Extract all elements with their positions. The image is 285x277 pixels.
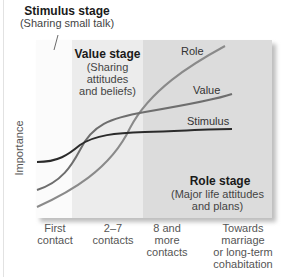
- y-axis-label: Importance: [13, 113, 25, 183]
- x-label-line: more: [140, 234, 194, 246]
- value-stage-subtitle-3: and beliefs): [72, 85, 143, 97]
- stimulus-stage-title: Stimulus stage: [22, 5, 112, 17]
- role-stage-subtitle-1: (Major life attitudes: [160, 188, 275, 200]
- x-label-line: Towards: [206, 222, 280, 234]
- x-label-2-7-contacts: 2–7 contacts: [88, 222, 138, 246]
- role-curve-label: Role: [181, 45, 204, 57]
- x-label-line: cohabitation: [206, 258, 280, 270]
- value-stage-subtitle-1: (Sharing: [72, 61, 143, 73]
- x-label-line: or long-term: [206, 246, 280, 258]
- x-label-8-more-contacts: 8 and more contacts: [140, 222, 194, 258]
- role-stage-title: Role stage: [170, 175, 270, 187]
- x-label-first-contact: First contact: [33, 222, 77, 246]
- x-label-line: contacts: [88, 234, 138, 246]
- role-stage-subtitle-2: and plans): [160, 200, 275, 212]
- stimulus-leader-line: [54, 35, 58, 50]
- stimulus-curve-label: Stimulus: [187, 115, 229, 127]
- x-label-line: marriage: [206, 234, 280, 246]
- value-curve-label: Value: [193, 84, 220, 96]
- stimulus-curve: [37, 129, 232, 162]
- x-label-line: contact: [33, 234, 77, 246]
- value-stage-subtitle-2: attitudes: [72, 73, 143, 85]
- x-label-line: First: [33, 222, 77, 234]
- x-label-line: 8 and: [140, 222, 194, 234]
- x-label-towards-marriage: Towards marriage or long-term cohabitati…: [206, 222, 280, 270]
- stimulus-stage-subtitle: (Sharing small talk): [12, 17, 122, 29]
- x-label-line: contacts: [140, 246, 194, 258]
- value-stage-title: Value stage: [72, 48, 143, 60]
- x-label-line: 2–7: [88, 222, 138, 234]
